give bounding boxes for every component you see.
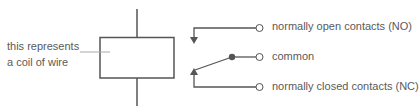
coil-label-line1: this represents — [7, 40, 79, 53]
coil-box — [100, 38, 174, 79]
common-arm — [195, 57, 232, 70]
no-contact-wire — [194, 28, 256, 40]
common-terminal-icon — [256, 54, 263, 61]
no-terminal-icon — [256, 25, 263, 32]
no-contact-label: normally open contacts (NO) — [272, 20, 412, 33]
coil-label-line2: a coil of wire — [7, 56, 68, 69]
no-arrow-icon — [190, 37, 198, 44]
nc-contact-wire — [194, 72, 256, 87]
common-contact-label: common — [272, 50, 314, 63]
nc-contact-label: normally closed contacts (NC) — [272, 80, 419, 93]
nc-terminal-icon — [256, 84, 263, 91]
